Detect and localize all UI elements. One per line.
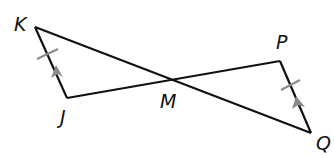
parallel-arrow-PQ-icon xyxy=(292,96,305,109)
label-J: J xyxy=(56,106,66,128)
label-M: M xyxy=(160,90,176,112)
congruence-tick-KJ xyxy=(37,49,58,59)
label-P: P xyxy=(276,31,288,53)
label-K: K xyxy=(14,13,28,35)
label-Q: Q xyxy=(316,132,331,154)
geometry-diagram: K J M P Q xyxy=(0,0,334,158)
congruence-tick-PQ xyxy=(281,80,300,90)
